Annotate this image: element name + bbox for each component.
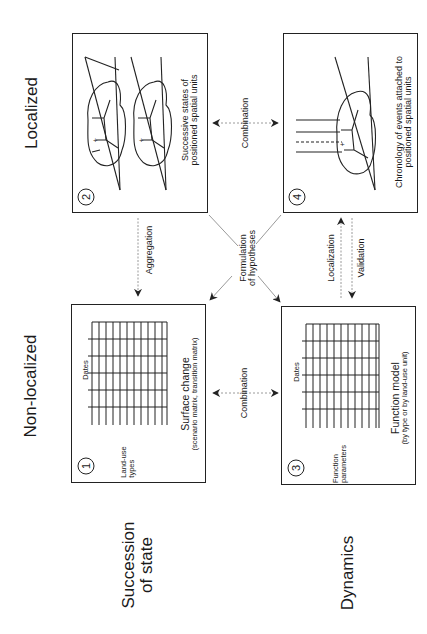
box-number-4: 4	[289, 189, 306, 206]
caption-box-4: Chronology of events attached to positio…	[395, 56, 414, 188]
box-number-3: 3	[288, 460, 305, 477]
row-label-1: Land-use types	[120, 446, 136, 477]
caption-box-2: Successive states of positioned spatial …	[181, 74, 200, 165]
row-label-3: Function parameters	[332, 445, 348, 483]
caption-box-3: Function model (by type or by land-use u…	[390, 352, 409, 445]
aggregation-label: Aggregation	[145, 226, 154, 275]
box-number-1: 1	[78, 458, 95, 475]
hypothesis-arrow-2	[258, 276, 280, 302]
dates-label-3: Dates	[293, 362, 301, 382]
hypothesis-arrow-1	[210, 276, 232, 300]
combination-label-top: Combination	[241, 98, 250, 149]
formulation-label: Formulation of hypotheses	[239, 230, 258, 286]
dates-label-1: Dates	[82, 360, 90, 380]
localization-label: Localization	[327, 234, 336, 282]
header-succession-of-state: Succession of state	[120, 522, 156, 609]
hypothesis-line-2	[256, 215, 281, 244]
validation-label: Validation	[357, 239, 366, 278]
combination-label-bottom: Combination	[240, 368, 249, 419]
box-number-2: 2	[78, 189, 95, 206]
header-localized: Localized	[23, 77, 41, 149]
header-non-localized: Non-localized	[22, 335, 40, 438]
hypothesis-line-1	[209, 215, 238, 246]
header-dynamics: Dynamics	[339, 536, 357, 611]
caption-box-1: Surface change (scenario matrix, transit…	[180, 338, 199, 451]
